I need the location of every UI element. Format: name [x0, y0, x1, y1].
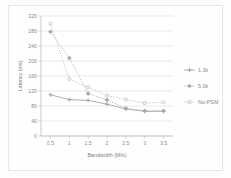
x-tick-label: 3	[143, 140, 146, 146]
y-tick-label: 80	[31, 103, 37, 109]
y-tick-label: 40	[31, 118, 37, 124]
x-tick-label: 3.5	[160, 140, 167, 146]
legend-label: No-PSM	[198, 99, 219, 105]
plot-area: 04080120160200240280320 0.511.522.533.5 …	[0, 0, 231, 178]
data-point-marker	[187, 68, 191, 72]
x-tick-label: 1.5	[85, 140, 92, 146]
x-tick-label: 2	[106, 140, 109, 146]
y-tick-label: 0	[34, 133, 37, 139]
chart-legend: 1.3k5.0kNo-PSM	[184, 67, 219, 105]
y-tick-label: 200	[28, 58, 37, 64]
data-point-marker	[187, 84, 191, 88]
chart-figure: 04080120160200240280320 0.511.522.533.5 …	[0, 0, 231, 178]
legend-item-no-psm[interactable]: No-PSM	[184, 99, 219, 105]
x-axis-title: Bandwidth (M/s)	[88, 152, 127, 158]
x-axis-ticks: 0.511.522.533.5	[47, 136, 167, 146]
line-chart-svg: 04080120160200240280320 0.511.522.533.5 …	[0, 0, 231, 178]
y-axis-ticks: 04080120160200240280320	[28, 13, 41, 139]
y-tick-label: 120	[28, 88, 37, 94]
legend-label: 5.0k	[198, 83, 208, 89]
y-tick-label: 320	[28, 13, 37, 19]
y-tick-label: 160	[28, 73, 37, 79]
legend-item-5-0k[interactable]: 5.0k	[184, 83, 208, 89]
x-tick-label: 1	[68, 140, 71, 146]
x-tick-label: 0.5	[47, 140, 54, 146]
y-tick-label: 280	[28, 28, 37, 34]
legend-item-1-3k[interactable]: 1.3k	[184, 67, 208, 73]
y-axis-title: Latency (ms)	[17, 60, 23, 91]
legend-label: 1.3k	[198, 67, 208, 73]
x-tick-label: 2.5	[122, 140, 129, 146]
y-tick-label: 240	[28, 43, 37, 49]
